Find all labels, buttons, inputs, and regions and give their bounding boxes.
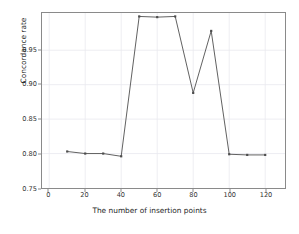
- y-tick-mark: [38, 49, 41, 50]
- x-axis-label: The number of insertion points: [0, 206, 299, 215]
- y-tick-label: 0.75: [22, 186, 37, 193]
- line-series-concordance-rate: [42, 13, 285, 188]
- y-tick-mark: [38, 119, 41, 120]
- y-tick-mark: [38, 154, 41, 155]
- x-tick-label: 120: [260, 192, 273, 199]
- y-tick-mark: [38, 84, 41, 85]
- x-tick-label: 100: [223, 192, 236, 199]
- x-tick-label: 80: [189, 192, 197, 199]
- y-tick-label: 0.80: [22, 151, 37, 158]
- plot-area: [41, 12, 286, 189]
- x-tick-label: 60: [153, 192, 161, 199]
- chart-figure: 0.750.800.850.900.95020406080100120 The …: [0, 0, 299, 234]
- y-axis-label: Concordance rate: [19, 0, 28, 126]
- x-tick-label: 40: [117, 192, 125, 199]
- y-tick-mark: [38, 189, 41, 190]
- x-tick-label: 0: [46, 192, 50, 199]
- x-tick-label: 20: [80, 192, 88, 199]
